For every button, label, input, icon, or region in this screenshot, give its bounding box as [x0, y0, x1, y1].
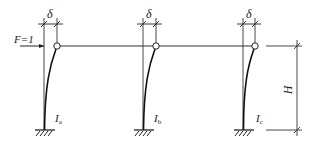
inertia-label-c: Ic: [256, 113, 263, 126]
delta-label-a: δ: [47, 8, 53, 20]
delta-dimension-b: [137, 21, 162, 27]
fixed-support-b: [134, 130, 154, 136]
inertia-label-a: Ia: [55, 113, 62, 126]
fixed-support-c: [234, 130, 254, 136]
delta-dimension-a: [38, 21, 63, 27]
delta-dimension-c: [237, 21, 261, 27]
delta-label-b: δ: [146, 8, 152, 20]
hinge-b: [153, 43, 159, 49]
hinge-a: [54, 43, 60, 49]
load-label: F=1: [14, 34, 34, 45]
height-label: H: [282, 86, 294, 95]
fixed-support-a: [35, 130, 55, 136]
delta-label-c: δ: [246, 8, 252, 20]
hinge-c: [252, 43, 258, 49]
deflected-column-c: [244, 49, 255, 130]
frame-diagram: [0, 0, 313, 150]
inertia-label-b: Ib: [154, 113, 161, 126]
